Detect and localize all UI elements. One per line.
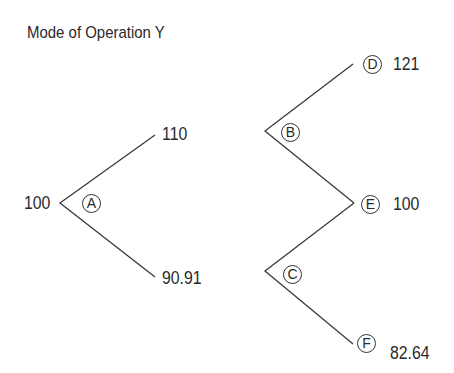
node-a: A: [82, 194, 101, 213]
value-f: 82.64: [390, 343, 430, 363]
branch-c-lines: [265, 203, 354, 344]
node-f: F: [357, 334, 376, 353]
value-up: 110: [162, 124, 187, 144]
value-e: 100: [393, 194, 419, 214]
value-down: 90.91: [162, 268, 202, 288]
node-b: B: [281, 123, 300, 142]
value-d: 121: [393, 54, 419, 74]
value-start: 100: [24, 193, 50, 213]
tree-lines: [0, 0, 454, 373]
branch-a-lines: [60, 135, 155, 277]
branch-b-lines: [265, 64, 354, 203]
node-e: E: [361, 195, 380, 214]
node-c: C: [283, 265, 302, 284]
node-d: D: [363, 55, 382, 74]
